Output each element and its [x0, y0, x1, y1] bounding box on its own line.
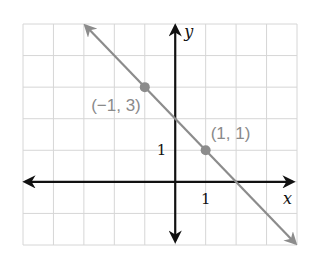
- x-axis-label: x: [283, 189, 292, 208]
- axes: [25, 26, 293, 241]
- data-point: [201, 145, 211, 155]
- series-line: [85, 26, 295, 244]
- y-tick-label: 1: [157, 141, 167, 159]
- coordinate-plane: xy11(−1, 3)(1, 1): [0, 0, 322, 275]
- point-label: (1, 1): [211, 124, 251, 143]
- data-point: [140, 82, 150, 92]
- point-label: (−1, 3): [91, 96, 141, 115]
- series: [85, 26, 295, 244]
- grid: [23, 24, 297, 245]
- y-axis-label: y: [183, 22, 194, 41]
- labels: xy11(−1, 3)(1, 1): [91, 22, 292, 208]
- x-tick-label: 1: [201, 190, 211, 208]
